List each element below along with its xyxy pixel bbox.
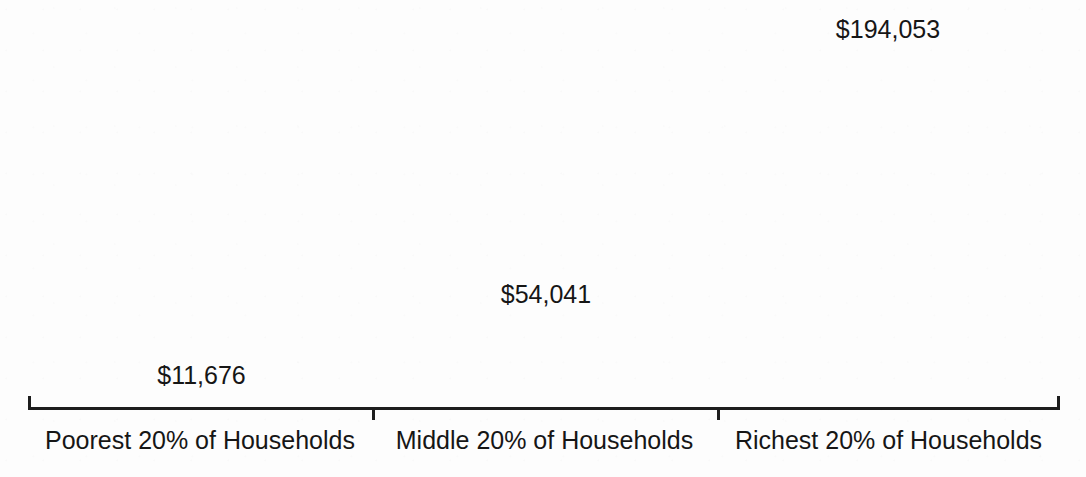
bar-value-label-middle: $54,041 bbox=[501, 282, 591, 307]
category-label-middle: Middle 20% of Households bbox=[372, 424, 717, 457]
category-label-richest: Richest 20% of Households bbox=[717, 424, 1060, 457]
category-axis-labels: Poorest 20% of Households Middle 20% of … bbox=[0, 424, 1086, 477]
axis-tick-separator-2 bbox=[717, 407, 720, 420]
axis-tick-left-endcap bbox=[28, 396, 31, 409]
bar-chart: $11,676 $54,041 $194,053 Poorest 20% of … bbox=[0, 0, 1086, 477]
plot-area: $11,676 $54,041 $194,053 bbox=[0, 0, 1086, 410]
bar-group-middle: $54,041 bbox=[490, 314, 602, 410]
bar-group-richest: $194,053 bbox=[832, 49, 944, 410]
axis-tick-right-endcap bbox=[1057, 396, 1060, 409]
bar-value-label-poorest: $11,676 bbox=[157, 363, 246, 388]
category-label-poorest: Poorest 20% of Households bbox=[28, 424, 372, 457]
axis-tick-separator-1 bbox=[372, 407, 375, 420]
bar-value-label-richest: $194,053 bbox=[836, 17, 940, 42]
x-axis-baseline bbox=[28, 407, 1060, 410]
